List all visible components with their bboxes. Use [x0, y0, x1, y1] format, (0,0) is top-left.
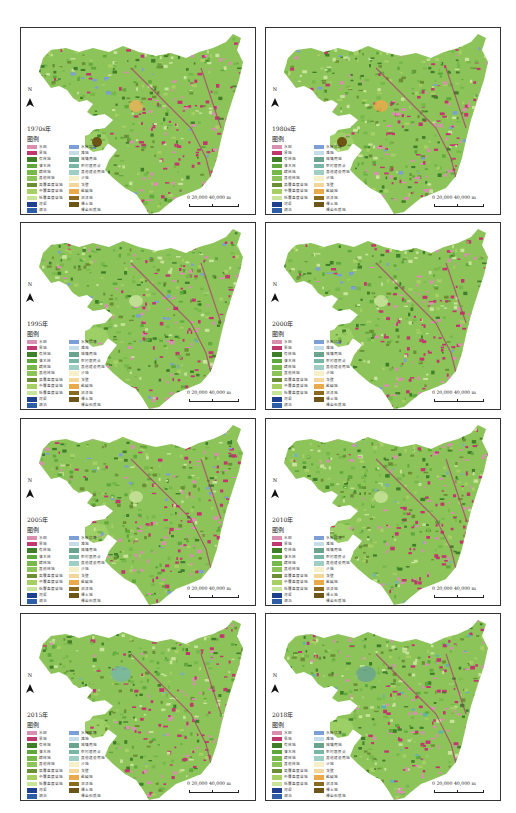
legend-swatch	[314, 189, 324, 194]
legend-swatch	[314, 762, 324, 767]
scale-bar: 0 20,000 40,000 m	[187, 781, 249, 795]
legend-swatch	[27, 170, 37, 175]
legend-swatch	[314, 151, 324, 156]
legend-swatch	[314, 555, 324, 560]
legend-swatch	[69, 183, 79, 188]
north-arrow: N	[25, 86, 35, 111]
legend-swatch	[69, 561, 79, 566]
legend-item: 沼泽地	[314, 195, 350, 201]
legend-item: 湖泊	[272, 794, 308, 800]
legend-swatch	[272, 782, 282, 787]
legend-swatch	[272, 151, 282, 156]
legend-swatch	[27, 731, 37, 736]
legend-column-left: 水田旱地有林地灌木林疏林地其他林地高覆盖度草地中覆盖度草地低覆盖度草地河渠湖泊	[27, 339, 63, 409]
legend-label: 中覆盖度草地	[39, 775, 63, 780]
legend-item: 滩地	[314, 736, 350, 742]
legend-item: 灌木林	[272, 358, 308, 364]
legend-label: 灌木林	[284, 555, 296, 560]
legend-column-right: 水库坑塘滩地城镇用地农村居民点其他建设用地沙地戈壁盐碱地沼泽地裸土地裸岩石质地	[314, 144, 350, 214]
legend-label: 水田	[39, 340, 47, 345]
legend-label: 其他林地	[39, 176, 55, 181]
legend-swatch	[27, 403, 37, 408]
legend-column-left: 水田旱地有林地灌木林疏林地其他林地高覆盖度草地中覆盖度草地低覆盖度草地河渠湖泊	[27, 144, 63, 214]
legend-item: 旱地	[272, 150, 308, 156]
scale-bar: 0 20,000 40,000 m	[187, 586, 249, 600]
legend-swatch	[69, 365, 79, 370]
legend-item: 戈壁	[314, 768, 350, 774]
legend-swatch	[272, 397, 282, 402]
legend-label: 高覆盖度草地	[284, 183, 308, 188]
legend-item: 盐碱地	[69, 580, 105, 586]
legend-swatch	[69, 587, 79, 592]
legend-item: 河渠	[272, 202, 308, 208]
scale-bar-tick	[457, 790, 458, 793]
legend-swatch	[27, 555, 37, 560]
legend-label: 疏林地	[39, 170, 51, 175]
legend-item: 旱地	[27, 736, 63, 742]
legend-item: 滩地	[69, 345, 105, 351]
legend-swatch	[314, 371, 324, 376]
legend-label: 高覆盖度草地	[39, 769, 63, 774]
legend-swatch	[314, 769, 324, 774]
legend-item: 沼泽地	[69, 781, 105, 787]
legend-item: 裸土地	[314, 397, 350, 403]
legend-label: 灌木林	[39, 164, 51, 169]
legend-swatch	[27, 208, 37, 213]
legend-item: 沼泽地	[314, 390, 350, 396]
legend-item: 有林地	[272, 157, 308, 163]
legend-item: 疏林地	[272, 170, 308, 176]
legend-swatch	[69, 340, 79, 345]
legend-label: 滩地	[81, 542, 89, 547]
legend-item: 疏林地	[27, 170, 63, 176]
legend-item: 湖泊	[272, 599, 308, 605]
legend-swatch	[314, 775, 324, 780]
legend-swatch	[69, 756, 79, 761]
legend-item: 滩地	[314, 345, 350, 351]
legend-item: 有林地	[27, 743, 63, 749]
legend-column-right: 水库坑塘滩地城镇用地农村居民点其他建设用地沙地戈壁盐碱地沼泽地裸土地裸岩石质地	[314, 535, 350, 605]
legend-swatch	[314, 359, 324, 364]
legend-label: 湖泊	[284, 599, 292, 604]
scale-bar-labels: 0 20,000 40,000 m	[187, 195, 249, 200]
scale-bar-line	[434, 595, 484, 598]
legend-label: 农村居民点	[81, 359, 101, 364]
legend-label: 其他建设用地	[81, 170, 105, 175]
north-arrow: N	[25, 477, 35, 502]
legend-swatch	[69, 599, 79, 604]
legend-swatch	[27, 196, 37, 201]
legend-label: 低覆盖度草地	[39, 587, 63, 592]
legend-label: 城镇用地	[326, 352, 342, 357]
north-arrow-icon	[271, 489, 279, 498]
legend-swatch	[272, 593, 282, 598]
legend-label: 疏林地	[284, 756, 296, 761]
north-arrow: N	[25, 281, 35, 306]
scale-bar-tick	[457, 204, 458, 207]
legend-swatch	[69, 580, 79, 585]
legend-swatch	[272, 176, 282, 181]
legend-swatch	[27, 769, 37, 774]
legend-title: 图例	[27, 134, 137, 143]
legend-item: 戈壁	[69, 377, 105, 383]
legend-label: 戈壁	[81, 769, 89, 774]
legend-label: 农村居民点	[81, 750, 101, 755]
legend-swatch	[69, 548, 79, 553]
legend-swatch	[272, 731, 282, 736]
legend-swatch	[272, 737, 282, 742]
year-label: 2015年	[27, 710, 48, 719]
legend-item: 水库坑塘	[69, 144, 105, 150]
legend-label: 疏林地	[284, 561, 296, 566]
legend-swatch	[272, 196, 282, 201]
legend-swatch	[314, 196, 324, 201]
scale-bar-labels: 0 20,000 40,000 m	[432, 781, 494, 786]
legend-label: 其他林地	[284, 567, 300, 572]
scale-bar-line	[189, 595, 239, 598]
legend-label: 有林地	[39, 548, 51, 553]
legend-column-right: 水库坑塘滩地城镇用地农村居民点其他建设用地沙地戈壁盐碱地沼泽地裸土地裸岩石质地	[69, 535, 105, 605]
legend-item: 其他建设用地	[69, 756, 105, 762]
north-arrow-icon	[271, 293, 279, 302]
legend-swatch	[314, 208, 324, 213]
legend-item: 其他建设用地	[314, 365, 350, 371]
legend-label: 旱地	[284, 737, 292, 742]
legend-item: 农村居民点	[314, 163, 350, 169]
legend-label: 裸岩石质地	[326, 599, 346, 604]
